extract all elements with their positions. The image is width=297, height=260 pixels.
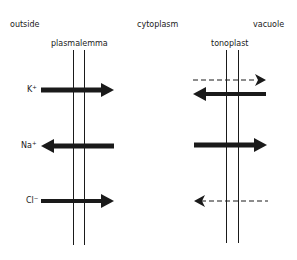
arrow-k-inward-plasmalemma	[41, 83, 114, 97]
arrow-k-out-of-vacuole	[193, 87, 266, 101]
arrow-na-into-vacuole	[194, 138, 267, 152]
arrow-cl-inward-plasmalemma	[41, 194, 114, 208]
arrow-k-into-vacuole-dashed	[193, 74, 266, 86]
arrow-cl-out-of-vacuole-dashed	[194, 195, 268, 207]
arrow-na-outward-plasmalemma	[41, 139, 114, 153]
transport-diagram	[0, 0, 297, 260]
